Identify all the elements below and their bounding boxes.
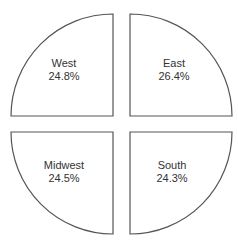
slice-south[interactable]: South 24.3% <box>130 132 232 234</box>
pie-chart: West 24.8% East 26.4% Midwest 24.5% Sout… <box>0 0 238 243</box>
slice-east-value: 26.4% <box>158 70 189 82</box>
slice-south-label: South <box>158 159 187 171</box>
slice-west-label: West <box>52 57 77 69</box>
slice-west[interactable]: West 24.8% <box>11 14 113 116</box>
slice-midwest[interactable]: Midwest 24.5% <box>11 132 113 234</box>
slice-midwest-label: Midwest <box>44 159 84 171</box>
slice-south-value: 24.3% <box>156 172 187 184</box>
slice-east[interactable]: East 26.4% <box>130 14 232 116</box>
slice-west-value: 24.8% <box>48 70 79 82</box>
slice-midwest-value: 24.5% <box>48 172 79 184</box>
slice-east-label: East <box>163 57 185 69</box>
